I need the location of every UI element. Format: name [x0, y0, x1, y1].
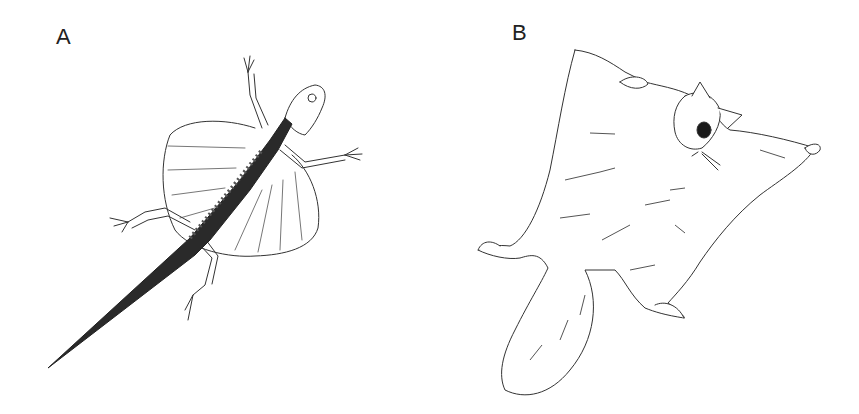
- lizard-illustration-icon: [0, 0, 430, 414]
- squirrel-illustration-icon: [430, 0, 859, 414]
- panel-a: A: [0, 0, 430, 414]
- panel-b: B: [430, 0, 859, 414]
